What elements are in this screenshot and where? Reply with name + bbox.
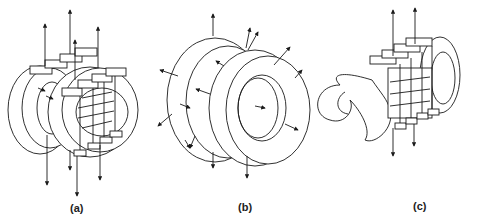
panel-c-drawing bbox=[318, 8, 460, 156]
panel-a-label: (a) bbox=[70, 202, 83, 214]
diagram-canvas bbox=[0, 0, 477, 222]
panel-a-drawing bbox=[8, 10, 138, 196]
panel-b-label: (b) bbox=[238, 201, 252, 213]
panel-b-drawing bbox=[158, 14, 310, 178]
panel-c-label: (c) bbox=[413, 200, 426, 212]
